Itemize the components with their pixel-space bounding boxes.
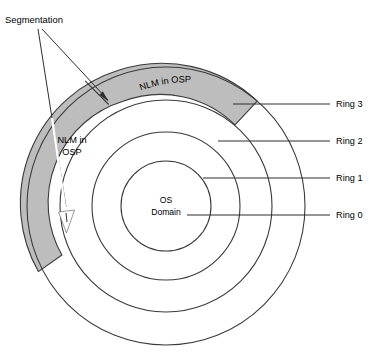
wedge-label-lower-line1: NLM in	[57, 135, 86, 145]
ring-boundary-1-0	[121, 161, 211, 251]
ring-diagram: Ring 3 Ring 2 Ring 1 Ring 0 OS Domain NL…	[0, 0, 385, 361]
segmentation-pointer-upper	[42, 29, 108, 100]
segmentation-wedge	[20, 63, 257, 271]
diagram-canvas: Ring 3 Ring 2 Ring 1 Ring 0 OS Domain NL…	[0, 0, 385, 361]
segmentation-label: Segmentation	[5, 14, 63, 25]
ring-label-1: Ring 1	[336, 173, 363, 183]
ring-label-3: Ring 3	[336, 99, 363, 109]
center-label-line1: OS	[160, 195, 173, 205]
ring-boundary-2-1	[92, 132, 240, 280]
center-label-line2: Domain	[151, 207, 181, 217]
ring-label-2: Ring 2	[336, 136, 363, 146]
ring-label-0: Ring 0	[336, 210, 363, 220]
wedge-label-lower-line2: OSP	[62, 147, 81, 157]
